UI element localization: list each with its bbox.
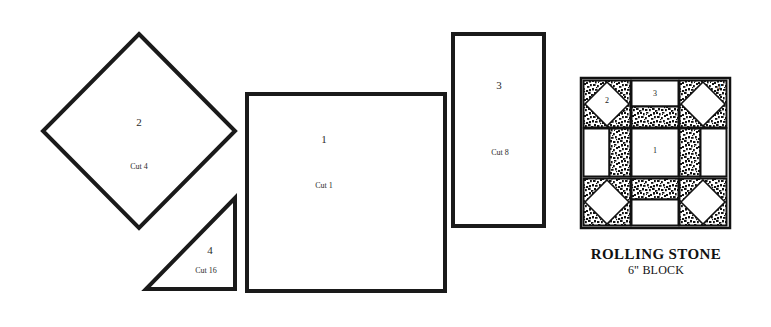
pattern-piece-rectangle-3 — [453, 34, 544, 226]
block-label-2: 2 — [605, 97, 609, 105]
block-caption: ROLLING STONE 6" BLOCK — [581, 246, 731, 278]
block-label-1: 1 — [653, 147, 657, 155]
block-cell-bottom-right — [680, 179, 727, 226]
pattern-sheet-canvas — [0, 0, 771, 327]
block-cell-middle-left — [584, 129, 631, 177]
block-label-4: 4 — [717, 84, 721, 92]
block-cell-bottom-left — [584, 179, 631, 226]
pattern-piece-diamond-2 — [43, 34, 235, 228]
block-cell-bottom-middle — [632, 179, 679, 226]
block-label-3: 3 — [653, 90, 657, 98]
pattern-piece-square-1 — [247, 94, 445, 291]
block-cell-middle-right — [680, 129, 727, 177]
block-subtitle: 6" BLOCK — [581, 263, 731, 277]
block-title: ROLLING STONE — [581, 246, 731, 263]
pattern-piece-triangle-4 — [146, 198, 235, 289]
block-cell-top-middle — [632, 81, 679, 128]
